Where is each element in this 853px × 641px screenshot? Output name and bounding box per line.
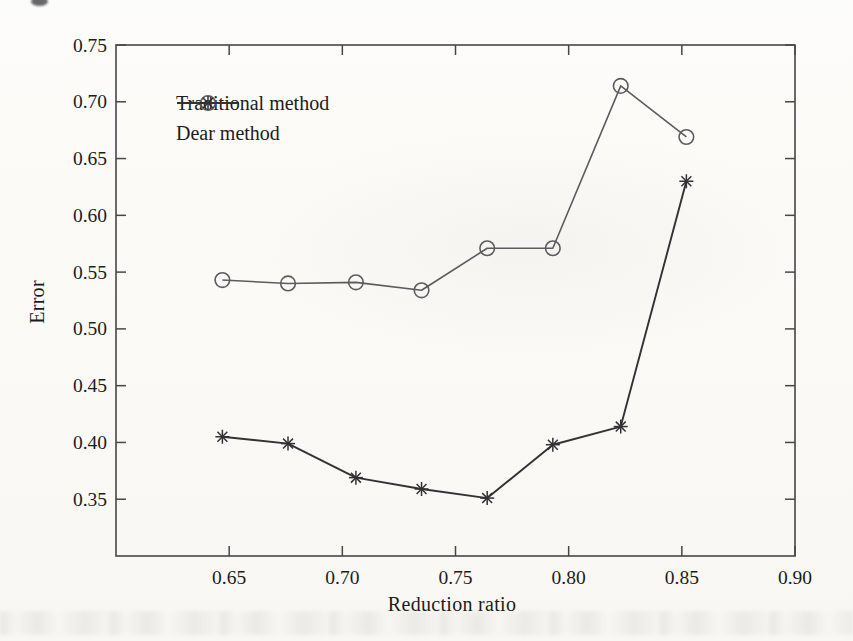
- y-tick-label: 0.70: [73, 91, 107, 112]
- y-tick-label: 0.35: [73, 489, 107, 510]
- scan-artifact-bleedthrough-band: [0, 611, 853, 635]
- y-tick-label: 0.45: [73, 375, 107, 396]
- y-tick-label: 0.75: [73, 35, 107, 56]
- scanned-figure-page: 0.650.700.750.800.850.900.350.400.450.50…: [0, 0, 853, 641]
- y-tick-label: 0.50: [73, 318, 107, 339]
- x-tick-label: 0.80: [552, 567, 586, 588]
- y-axis-label: Error: [26, 280, 49, 324]
- x-tick-label: 0.85: [665, 567, 699, 588]
- y-tick-label: 0.60: [73, 205, 107, 226]
- legend-label: Dear method: [176, 121, 280, 145]
- legend: Traditional methodDear method: [176, 91, 329, 145]
- x-tick-label: 0.70: [325, 567, 359, 588]
- series-dear-method: [215, 174, 693, 505]
- y-tick-label: 0.40: [73, 432, 107, 453]
- legend-asterisk-marker-icon: [176, 91, 240, 115]
- legend-entry: Dear method: [176, 121, 329, 145]
- x-tick-label: 0.75: [438, 567, 472, 588]
- series-line: [222, 181, 686, 498]
- chart-plot-area: 0.650.700.750.800.850.900.350.400.450.50…: [0, 0, 853, 641]
- y-tick-label: 0.65: [73, 148, 107, 169]
- x-tick-label: 0.90: [778, 567, 812, 588]
- y-tick-label: 0.55: [73, 262, 107, 283]
- x-tick-label: 0.65: [212, 567, 246, 588]
